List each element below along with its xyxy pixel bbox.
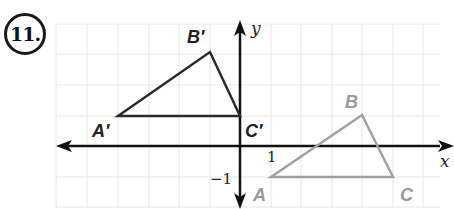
coordinate-plane-figure: 11. y x 1 −1 B′ A′ C′ B A C xyxy=(0,0,454,209)
vertex-label-c-prime: C′ xyxy=(245,121,262,142)
problem-number: 11. xyxy=(10,23,40,45)
x-axis-label: x xyxy=(440,151,450,171)
vertex-label-c: C xyxy=(400,185,413,206)
y-axis-label: y xyxy=(251,18,261,38)
vertex-label-a-prime: A′ xyxy=(92,121,109,142)
grid xyxy=(56,24,440,208)
x-tick-label-1: 1 xyxy=(267,148,277,166)
vertex-label-a: A xyxy=(253,185,266,206)
vertex-label-b-prime: B′ xyxy=(187,27,204,48)
problem-number-badge: 11. xyxy=(4,13,46,55)
vertex-label-b: B xyxy=(345,92,358,113)
y-tick-label-neg1: −1 xyxy=(210,170,232,188)
